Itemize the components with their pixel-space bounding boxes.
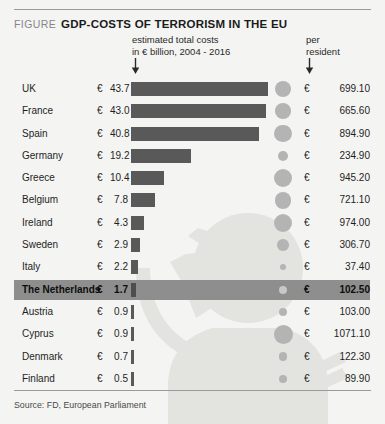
- cost-bar: [131, 350, 134, 364]
- cost-value: 10.4: [110, 172, 128, 183]
- table-row: Sweden€2.9€306.70: [0, 234, 385, 256]
- cost-bar: [131, 305, 134, 319]
- cost-bar: [131, 260, 138, 274]
- per-resident-value: 699.10: [300, 83, 370, 94]
- down-arrow-icon-costs: [131, 58, 140, 74]
- country-label: Belgium: [22, 194, 58, 205]
- per-resident-bubble: [274, 325, 293, 344]
- cost-value: 19.2: [110, 150, 128, 161]
- euro-symbol-cost: €: [97, 306, 103, 317]
- euro-symbol-cost: €: [97, 83, 103, 94]
- table-row: Germany€19.2€234.90: [0, 145, 385, 167]
- country-label: Denmark: [22, 351, 63, 362]
- table-row: Ireland€4.3€974.00: [0, 212, 385, 234]
- per-resident-value: 665.60: [300, 105, 370, 116]
- per-resident-bubble: [274, 125, 292, 143]
- per-resident-value: 234.90: [300, 150, 370, 161]
- euro-symbol-cost: €: [97, 172, 103, 183]
- euro-symbol-cost: €: [97, 217, 103, 228]
- table-row: Cyprus€0.9€1071.10: [0, 323, 385, 345]
- cost-bar: [131, 327, 134, 341]
- per-resident-bubble: [279, 308, 287, 316]
- country-label: Cyprus: [22, 328, 54, 339]
- euro-symbol-cost: €: [97, 128, 103, 139]
- cost-value: 2.9: [110, 239, 128, 250]
- per-resident-bubble: [279, 286, 287, 294]
- header-right-line1: per: [306, 34, 340, 46]
- per-resident-bubble: [277, 239, 289, 251]
- country-label: Germany: [22, 150, 63, 161]
- top-rule: [14, 9, 371, 10]
- cost-value: 0.5: [110, 373, 128, 384]
- header-left-line2: in € billion, 2004 - 2016: [132, 46, 230, 58]
- cost-value: 43.0: [110, 105, 128, 116]
- per-resident-value: 974.00: [300, 217, 370, 228]
- per-resident-bubble: [275, 103, 291, 119]
- per-resident-value: 945.20: [300, 172, 370, 183]
- euro-symbol-cost: €: [97, 150, 103, 161]
- cost-value: 7.8: [110, 194, 128, 205]
- euro-symbol-cost: €: [97, 194, 103, 205]
- down-arrow-icon-per-resident: [305, 58, 314, 74]
- country-label: Spain: [22, 128, 48, 139]
- cost-bar: [131, 82, 268, 96]
- cost-value: 2.2: [110, 261, 128, 272]
- country-label: Greece: [22, 172, 55, 183]
- table-row: Italy€2.2€37.40: [0, 256, 385, 278]
- header-left-line1: estimated total costs: [132, 34, 230, 46]
- per-resident-value: 103.00: [300, 306, 370, 317]
- per-resident-value: 89.90: [300, 373, 370, 384]
- table-row: UK€43.7€699.10: [0, 78, 385, 100]
- cost-bar: [131, 149, 191, 163]
- header-right-annotation: per resident: [306, 34, 340, 57]
- country-label: Austria: [22, 306, 53, 317]
- cost-bar: [131, 104, 266, 118]
- table-row: Finland€0.5€89.90: [0, 368, 385, 390]
- cost-value: 4.3: [110, 217, 128, 228]
- country-label: Ireland: [22, 217, 53, 228]
- euro-symbol-cost: €: [97, 261, 103, 272]
- country-label: Finland: [22, 373, 55, 384]
- cost-value: 1.7: [110, 284, 128, 295]
- per-resident-bubble: [278, 151, 289, 162]
- table-row: France€43.0€665.60: [0, 100, 385, 122]
- per-resident-bubble: [279, 352, 288, 361]
- euro-symbol-cost: €: [97, 105, 103, 116]
- country-label: France: [22, 105, 53, 116]
- country-label: Sweden: [22, 239, 58, 250]
- euro-symbol-cost: €: [97, 239, 103, 250]
- cost-bar: [131, 171, 164, 185]
- cost-bar: [131, 193, 155, 207]
- per-resident-value: 37.40: [300, 261, 370, 272]
- per-resident-value: 721.10: [300, 194, 370, 205]
- cost-value: 0.7: [110, 351, 128, 362]
- per-resident-value: 1071.10: [300, 328, 370, 339]
- cost-bar: [131, 283, 136, 297]
- per-resident-value: 894.90: [300, 128, 370, 139]
- table-row: Austria€0.9€103.00: [0, 301, 385, 323]
- cost-bar: [131, 238, 140, 252]
- country-label: The Netherlands: [22, 284, 100, 295]
- per-resident-bubble: [274, 169, 292, 187]
- table-row: Greece€10.4€945.20: [0, 167, 385, 189]
- per-resident-bubble: [280, 264, 286, 270]
- figure-title-row: FIGUREGDP-costs of terrorism in the EU: [14, 14, 287, 32]
- cost-bar: [131, 127, 259, 141]
- country-label: UK: [22, 83, 36, 94]
- table-row: The Netherlands€1.7€102.50: [0, 279, 385, 301]
- source-note: Source: FD, European Parliament: [14, 400, 146, 410]
- euro-symbol-cost: €: [97, 351, 103, 362]
- per-resident-bubble: [274, 214, 292, 232]
- per-resident-bubble: [279, 375, 287, 383]
- cost-bar: [131, 216, 144, 230]
- per-resident-value: 306.70: [300, 239, 370, 250]
- page-title: GDP-costs of terrorism in the EU: [61, 18, 287, 30]
- per-resident-value: 122.30: [300, 351, 370, 362]
- header-left-annotation: estimated total costs in € billion, 2004…: [132, 34, 230, 57]
- table-row: Belgium€7.8€721.10: [0, 189, 385, 211]
- per-resident-bubble: [275, 81, 291, 97]
- per-resident-value: 102.50: [300, 284, 370, 295]
- table-row: Denmark€0.7€122.30: [0, 346, 385, 368]
- euro-symbol-cost: €: [97, 373, 103, 384]
- cost-value: 40.8: [110, 128, 128, 139]
